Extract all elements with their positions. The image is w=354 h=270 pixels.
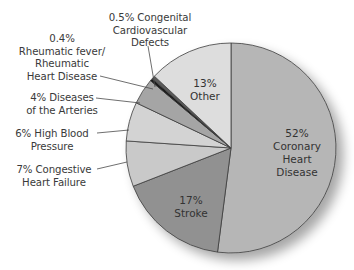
congenital-line1: 0.5% Congenital — [98, 12, 202, 25]
leader-arteries — [96, 98, 140, 103]
slice-label-rheumatic: 0.4% Rheumatic fever/ Rheumatic Heart Di… — [16, 33, 108, 83]
hbp-line2: Pressure — [10, 141, 94, 154]
congenital-line3: Defects — [98, 37, 202, 50]
coronary-pct: 52% — [262, 127, 332, 140]
slice-label-hbp: 6% High Blood Pressure — [10, 128, 94, 153]
leader-hbp — [97, 130, 129, 133]
arteries-line1: 4% Diseases — [22, 92, 102, 105]
congenital-line2: Cardiovascular — [98, 25, 202, 38]
chf-line1: 7% Congestive — [10, 164, 98, 177]
slice-label-stroke: 17% Stroke — [166, 194, 216, 220]
coronary-line2: Heart — [262, 153, 332, 166]
slice-label-coronary: 52% Coronary Heart Disease — [262, 127, 332, 179]
hbp-line1: 6% High Blood — [10, 128, 94, 141]
coronary-line3: Disease — [262, 166, 332, 179]
rheumatic-line4: Heart Disease — [16, 71, 108, 84]
chf-line2: Heart Failure — [10, 177, 98, 190]
rheumatic-line3: Rheumatic — [16, 58, 108, 71]
rheumatic-line1: 0.4% — [16, 33, 108, 46]
arteries-line2: of the Arteries — [22, 105, 102, 118]
rheumatic-line2: Rheumatic fever/ — [16, 46, 108, 59]
other-pct: 13% — [185, 77, 225, 90]
slice-label-congenital: 0.5% Congenital Cardiovascular Defects — [98, 12, 202, 50]
other-line1: Other — [185, 90, 225, 103]
leader-chf — [97, 162, 127, 169]
slice-label-other: 13% Other — [185, 77, 225, 103]
pie-chart: 52% Coronary Heart Disease 17% Stroke 13… — [0, 0, 354, 270]
slice-label-chf: 7% Congestive Heart Failure — [10, 164, 98, 189]
coronary-line1: Coronary — [262, 140, 332, 153]
stroke-line1: Stroke — [166, 207, 216, 220]
stroke-pct: 17% — [166, 194, 216, 207]
slice-label-arteries: 4% Diseases of the Arteries — [22, 92, 102, 117]
